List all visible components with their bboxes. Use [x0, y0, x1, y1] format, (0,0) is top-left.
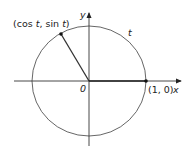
- point-1-0: [144, 79, 148, 83]
- point-label: (cos t, sin t): [13, 18, 70, 29]
- y-axis-label: y: [79, 9, 86, 20]
- right-point-label: (1, 0): [148, 84, 174, 95]
- radius-to-point: [61, 34, 89, 81]
- x-axis-label: x: [172, 84, 179, 95]
- point-cos-sin: [59, 32, 63, 36]
- unit-circle-diagram: (cos t, sin t) t 0 (1, 0) x y: [0, 0, 189, 151]
- arc-label: t: [128, 27, 133, 38]
- origin-label: 0: [80, 83, 86, 94]
